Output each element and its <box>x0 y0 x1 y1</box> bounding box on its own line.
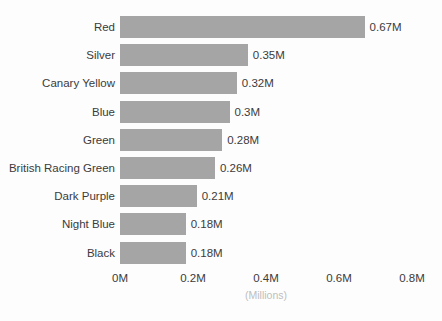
bar-value-label: 0.26M <box>215 157 252 179</box>
bar-row[interactable]: Dark Purple 0.21M <box>120 182 412 210</box>
bar-value-label: 0.18M <box>186 213 223 235</box>
bar-row[interactable]: Night Blue 0.18M <box>120 210 412 238</box>
bar-row[interactable]: Silver 0.35M <box>120 41 412 69</box>
bar[interactable] <box>120 16 365 38</box>
bar-value-label: 0.67M <box>365 16 402 38</box>
category-label: Night Blue <box>62 213 115 235</box>
x-axis-title: (Millions) <box>120 289 412 301</box>
category-label: British Racing Green <box>9 157 115 179</box>
bar-value-label: 0.28M <box>222 129 259 151</box>
x-tick-label: 0.8M <box>399 270 425 286</box>
category-label: Green <box>83 129 115 151</box>
bar-value-label: 0.21M <box>197 185 234 207</box>
bar[interactable] <box>120 44 248 66</box>
bar-row[interactable]: Black 0.18M <box>120 239 412 267</box>
bar-value-label: 0.32M <box>237 72 274 94</box>
category-label: Canary Yellow <box>42 72 115 94</box>
bar[interactable] <box>120 242 186 264</box>
bar-value-label: 0.18M <box>186 242 223 264</box>
bar-row[interactable]: British Racing Green 0.26M <box>120 154 412 182</box>
category-label: Silver <box>86 44 115 66</box>
x-tick-label: 0.6M <box>326 270 352 286</box>
bar-row[interactable]: Canary Yellow 0.32M <box>120 69 412 97</box>
bar-row[interactable]: Red 0.67M <box>120 13 412 41</box>
category-label: Black <box>87 242 115 264</box>
bar[interactable] <box>120 72 237 94</box>
x-tick-label: 0.4M <box>253 270 279 286</box>
bar[interactable] <box>120 185 197 207</box>
bar[interactable] <box>120 129 222 151</box>
x-axis: 0M 0.2M 0.4M 0.6M 0.8M <box>120 270 412 288</box>
bar-row[interactable]: Green 0.28M <box>120 126 412 154</box>
bar[interactable] <box>120 101 230 123</box>
x-tick-label: 0M <box>112 270 128 286</box>
category-label: Blue <box>92 101 115 123</box>
bar-value-label: 0.3M <box>230 101 261 123</box>
x-tick-label: 0.2M <box>180 270 206 286</box>
bar-value-label: 0.35M <box>248 44 285 66</box>
bar[interactable] <box>120 157 215 179</box>
category-label: Dark Purple <box>54 185 115 207</box>
bar-chart: Red 0.67M Silver 0.35M Canary Yellow 0.3… <box>0 0 442 321</box>
category-label: Red <box>94 16 115 38</box>
plot-area: Red 0.67M Silver 0.35M Canary Yellow 0.3… <box>120 13 412 267</box>
bar-row[interactable]: Blue 0.3M <box>120 98 412 126</box>
bar[interactable] <box>120 213 186 235</box>
